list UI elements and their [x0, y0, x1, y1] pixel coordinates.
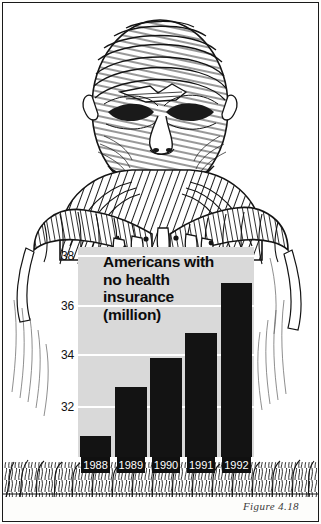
chart-title-line-2: no health: [103, 271, 253, 289]
ytick-label-32: 32: [61, 400, 74, 414]
figure-caption: Figure 4.18: [243, 500, 299, 512]
x-axis-label-1989: 1989: [117, 457, 145, 473]
chart-title-line-3: insurance: [103, 288, 253, 306]
bar-1991[interactable]: [185, 333, 217, 457]
chart-title-line-4: (million): [103, 306, 253, 324]
bar-1990[interactable]: [150, 358, 182, 457]
x-label-slot-1991: 1991: [184, 457, 219, 473]
x-label-slot-1989: 1989: [113, 457, 148, 473]
x-axis-label-1988: 1988: [81, 457, 109, 473]
x-axis-label-1992: 1992: [222, 457, 250, 473]
x-label-slot-1990: 1990: [148, 457, 183, 473]
chart-title: Americans with no health insurance (mill…: [103, 253, 253, 323]
ytick-label-36: 36: [61, 299, 74, 313]
chart-title-line-1: Americans with: [103, 253, 253, 271]
bar-1988[interactable]: [80, 436, 112, 457]
x-label-slot-1992: 1992: [219, 457, 254, 473]
bar-1989[interactable]: [115, 387, 147, 457]
chart-plot-area: 38 36 34 32: [78, 247, 254, 457]
x-axis-label-1991: 1991: [187, 457, 215, 473]
x-label-slot-1988: 1988: [78, 457, 113, 473]
page-canvas: 38 36 34 32: [0, 0, 321, 524]
bar-chart: 38 36 34 32: [59, 245, 254, 475]
ytick-label-38: 38: [61, 249, 74, 263]
x-axis-labels: 1988 1989 1990 1991 1992: [78, 457, 254, 473]
x-axis-label-1990: 1990: [152, 457, 180, 473]
ytick-label-34: 34: [61, 348, 74, 362]
